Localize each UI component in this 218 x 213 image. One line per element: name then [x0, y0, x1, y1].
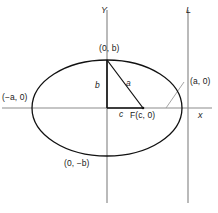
y-axis-label: Y: [101, 5, 107, 15]
left-vertex-label: (−a, 0): [2, 92, 28, 102]
top-vertex-label: (0, b): [99, 43, 119, 53]
focus-label: F(c, 0): [130, 110, 155, 120]
ellipse-figure: Y x L (0, b) (0, −b) (−a, 0) (a, 0) F(c,…: [0, 0, 218, 213]
x-axis-label: x: [198, 110, 203, 120]
semi-major-label-a: a: [126, 78, 131, 88]
figure-canvas: [0, 0, 218, 213]
semi-major-segment-a: [107, 60, 143, 108]
directrix-label-l: L: [186, 5, 191, 15]
focus-point-marker: [142, 107, 145, 110]
semi-minor-label-b: b: [95, 80, 100, 90]
focal-distance-label-c: c: [119, 109, 123, 119]
right-vertex-label: (a, 0): [190, 76, 210, 86]
bottom-vertex-label: (0, −b): [64, 158, 90, 168]
